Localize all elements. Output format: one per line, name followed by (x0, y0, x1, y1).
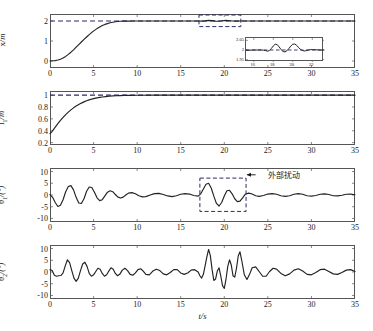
ylabel-unit: /(°) (0, 263, 6, 274)
subplot-swing-angle-2 (50, 245, 355, 299)
inset-axes-cart-position (245, 37, 323, 61)
inset-xtick-label: 18 (270, 62, 275, 67)
subplot-swing-angle-1 (50, 168, 355, 222)
ylabel-subscript: 1 (2, 197, 8, 200)
ytick-label: 2 (0, 17, 48, 26)
xtick-label: 10 (133, 146, 141, 155)
xtick-label: 30 (307, 146, 315, 155)
xtick-label: 0 (48, 69, 52, 78)
ylabel-subscript: 2 (2, 274, 8, 277)
xtick-label: 5 (92, 69, 96, 78)
xtick-label: 15 (177, 223, 185, 232)
plot-canvas-l1 (50, 91, 355, 145)
xtick-label: 30 (307, 69, 315, 78)
xtick-label: 5 (92, 300, 96, 309)
inset-ytick-label: 2.05 (232, 37, 244, 42)
xtick-label: 15 (177, 69, 185, 78)
plot-canvas-theta2 (50, 245, 355, 299)
xtick-label: 30 (307, 223, 315, 232)
xtick-label: 0 (48, 146, 52, 155)
inset-xtick-label: 16 (251, 62, 256, 67)
ylabel-symbol: θ (0, 200, 6, 204)
xtick-label: 10 (133, 69, 141, 78)
xtick-label: 5 (92, 146, 96, 155)
xtick-label: 35 (351, 146, 359, 155)
xtick-label: 35 (351, 300, 359, 309)
figure-root: 012 05101520253035 x/m 1.9522.05 1618202… (0, 0, 373, 331)
ylabel-symbol: θ (0, 277, 6, 281)
ylabel-subscript: 1 (2, 119, 8, 122)
ylabel-unit: /(°) (0, 186, 6, 197)
xtick-label: 20 (220, 223, 228, 232)
xtick-label: 20 (220, 69, 228, 78)
xtick-label: 15 (177, 300, 185, 309)
xtick-label: 25 (264, 223, 272, 232)
xtick-label: 20 (220, 146, 228, 155)
xtick-label: 15 (177, 146, 185, 155)
ylabel-symbol: x (0, 42, 7, 46)
inset-ytick-label: 1.95 (232, 56, 244, 61)
xtick-label: 10 (133, 223, 141, 232)
ylabel-swing-angle-2: θ2/(°) (0, 249, 8, 295)
ylabel-unit: /m (0, 34, 7, 43)
xtick-label: 30 (307, 300, 315, 309)
ylabel-cart-position: x/m (0, 17, 7, 63)
ylabel-rope-length: l1/m (0, 95, 8, 141)
inset-xtick-label: 22 (309, 62, 314, 67)
xtick-label: 35 (351, 69, 359, 78)
xtick-label: 20 (220, 300, 228, 309)
xtick-label: 0 (48, 300, 52, 309)
plot-canvas-theta1 (50, 168, 355, 222)
xtick-label: 10 (133, 300, 141, 309)
inset-canvas (246, 38, 324, 62)
ytick-label: 1 (0, 37, 48, 46)
inset-ytick-label: 2 (232, 47, 244, 52)
inset-xtick-label: 20 (290, 62, 295, 67)
ylabel-unit: /m (0, 111, 6, 120)
xtick-label: 25 (264, 146, 272, 155)
xtick-label: 25 (264, 300, 272, 309)
ylabel-swing-angle-1: θ1/(°) (0, 172, 8, 218)
xlabel-time: t/s (198, 311, 206, 321)
subplot-rope-length (50, 91, 355, 145)
xtick-label: 0 (48, 223, 52, 232)
disturbance-annotation: 外部扰动 (268, 169, 300, 180)
xtick-label: 25 (264, 69, 272, 78)
xtick-label: 5 (92, 223, 96, 232)
xtick-label: 35 (351, 223, 359, 232)
ytick-label: 0 (0, 57, 48, 66)
